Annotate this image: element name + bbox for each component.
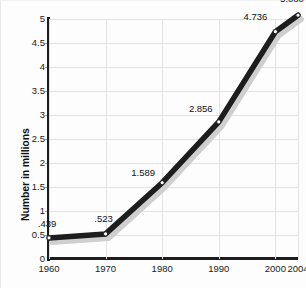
y-tick-label: 1: [25, 205, 45, 217]
data-point-marker: [273, 30, 277, 34]
y-tick-label: 1.5: [25, 181, 45, 193]
y-tick-label-text: 5: [25, 13, 45, 24]
y-tick-label-text: 0.5: [25, 229, 45, 240]
y-tick-label-text: 1: [25, 205, 45, 216]
y-tick-label: 0.5: [25, 229, 45, 241]
y-tick-label-text: 4: [25, 61, 45, 72]
data-point-label: 2.856: [179, 103, 223, 114]
y-tick-label: 5: [25, 13, 45, 25]
y-tick-label-text: 1.5: [25, 181, 45, 192]
data-point-marker: [217, 120, 221, 124]
data-point-label: 5.080: [270, 0, 306, 4]
data-point-marker: [160, 181, 164, 185]
data-point-label: 1.589: [121, 167, 165, 178]
y-tick-label-text: 4.5: [25, 37, 45, 48]
data-point-label: 4.736: [233, 11, 277, 22]
data-point-marker: [47, 236, 51, 240]
y-tick-label-text: 3.5: [25, 85, 45, 96]
y-tick-label-text: 3: [25, 109, 45, 120]
y-tick-label-text: 2.5: [25, 133, 45, 144]
plot-area: .439.5231.5892.8564.7365.080: [49, 19, 298, 259]
data-point-marker: [103, 232, 107, 236]
y-tick-label: 3.5: [25, 85, 45, 97]
series-line: [49, 15, 298, 238]
line-chart: Number in millions 00.511.522.533.544.55…: [0, 0, 306, 288]
y-tick-label: 4.5: [25, 37, 45, 49]
y-tick-label: 3: [25, 109, 45, 121]
x-tick-label: 1980: [140, 263, 184, 274]
y-tick-label: 4: [25, 61, 45, 73]
data-point-marker: [296, 13, 300, 17]
y-tick-label: 2: [25, 157, 45, 169]
y-tick-label-text: 2: [25, 157, 45, 168]
gridline-vertical: [298, 19, 299, 259]
data-point-label: .523: [82, 213, 126, 224]
y-tick-label: 2.5: [25, 133, 45, 145]
x-tick-label: 2004: [276, 263, 306, 274]
x-tick-label: 1960: [27, 263, 71, 274]
x-tick-label: 1990: [197, 263, 241, 274]
x-tick-label: 1970: [84, 263, 128, 274]
data-point-label: .439: [25, 218, 69, 229]
